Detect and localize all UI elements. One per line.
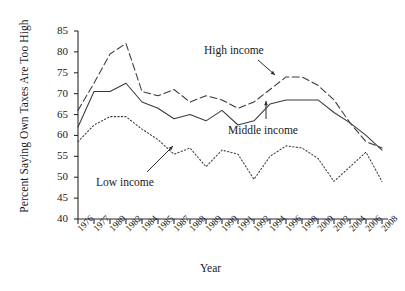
x-axis-title-text: Year xyxy=(200,262,221,274)
x-axis-title: Year xyxy=(0,262,405,274)
y-axis-tick-label: 65 xyxy=(42,109,68,120)
y-axis-tick-label: 60 xyxy=(42,129,68,140)
y-axis-tick-label: 80 xyxy=(42,46,68,57)
annotation-arrowhead xyxy=(264,101,268,105)
annotation-leader-line xyxy=(147,146,173,172)
y-axis-tick-label: 40 xyxy=(42,213,68,224)
y-axis-tick-label: 75 xyxy=(42,67,68,78)
chart-figure: Percent Saying Own Taxes Are Too High Ye… xyxy=(0,0,405,291)
y-axis-tick-label: 45 xyxy=(42,192,68,203)
series-line-middle-income xyxy=(78,83,382,150)
annotation-label-middle-income: Middle income xyxy=(228,124,298,136)
y-axis-tick-label: 85 xyxy=(42,25,68,36)
annotation-label-low-income: Low income xyxy=(96,176,154,188)
y-axis-tick-label: 70 xyxy=(42,88,68,99)
y-axis-tick-label: 50 xyxy=(42,171,68,182)
chart-plot-area xyxy=(0,0,405,291)
y-axis-tick-label: 55 xyxy=(42,150,68,161)
annotation-label-high-income: High income xyxy=(204,44,264,56)
